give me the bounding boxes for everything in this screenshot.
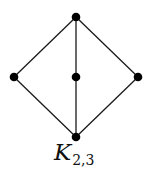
- node-right: [134, 73, 143, 82]
- graph-label-subscript: 2,3: [72, 152, 94, 168]
- node-top: [72, 13, 81, 22]
- graph-label: K2,3: [54, 141, 94, 164]
- edge-top-left: [14, 17, 76, 77]
- edge-top-right: [76, 17, 138, 77]
- edge-bottom-right: [76, 77, 138, 137]
- node-left: [10, 73, 19, 82]
- graph-label-main: K: [54, 139, 71, 165]
- node-bottom: [72, 133, 81, 142]
- edge-bottom-left: [14, 77, 76, 137]
- node-center: [72, 73, 81, 82]
